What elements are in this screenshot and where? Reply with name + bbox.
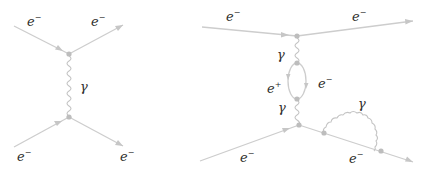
label-incoming-top: e−: [226, 8, 240, 24]
propagator-outgoing-top: [69, 25, 123, 54]
vertex: [321, 130, 326, 135]
vertex: [296, 122, 301, 127]
label-photon-lower: γ: [278, 100, 286, 115]
label-loop-positron: e+: [267, 80, 281, 96]
propagator-incoming-top: [14, 26, 69, 54]
label-photon-exchange: γ: [80, 79, 88, 94]
vertex: [294, 33, 299, 38]
propagator-incoming-top: [202, 27, 297, 38]
label-outgoing-top: e−: [91, 13, 105, 29]
arrow-icon: [405, 157, 413, 163]
vertex: [294, 60, 299, 65]
arrow-icon: [55, 45, 63, 51]
label-incoming-top: e−: [27, 13, 41, 29]
propagator-incoming-bottom: [14, 117, 69, 147]
label-incoming-bottom: e−: [240, 149, 254, 165]
label-outgoing-bottom: e−: [120, 148, 134, 164]
label-photon-emitted: γ: [358, 96, 366, 111]
vertex: [66, 51, 71, 56]
photon-emitted: [323, 112, 377, 152]
diagram-left: e− e− γ e− e−: [14, 13, 134, 164]
arrow-icon: [281, 32, 289, 38]
label-incoming-bottom: e−: [17, 148, 31, 164]
photon-upper: [295, 38, 299, 63]
label-outgoing-top: e−: [352, 8, 366, 24]
label-loop-electron: e−: [318, 75, 332, 91]
propagator-outgoing-bottom: [69, 117, 123, 146]
feynman-diagrams: e− e− γ e− e−: [0, 0, 422, 173]
photon-exchange: [67, 56, 71, 118]
diagram-right: e− e− γ e+ e− γ γ e− e−: [200, 8, 413, 166]
photon-lower: [295, 100, 300, 125]
label-photon-upper: γ: [277, 47, 285, 62]
vertex: [378, 148, 383, 153]
fermion-loop: [286, 63, 309, 99]
label-outgoing-bottom: e−: [349, 150, 363, 166]
vertex: [294, 96, 299, 101]
vertex: [66, 114, 71, 119]
arrow-icon: [286, 74, 291, 80]
arrow-icon: [282, 128, 290, 133]
